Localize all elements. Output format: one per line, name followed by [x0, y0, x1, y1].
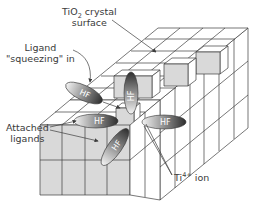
ligand-label: HF — [94, 117, 105, 126]
ligand-callout-line — [73, 50, 90, 82]
ligand-label: HF — [160, 118, 171, 127]
ligand-attached-left: HF — [74, 114, 118, 128]
tio2-crystal-diagram: HF HF HF HF HF — [0, 0, 262, 202]
raised-cube-right — [196, 46, 228, 74]
ti-ion-label: Ti4+ ion — [174, 172, 209, 183]
attached-ligands-label: Attached ligands — [6, 122, 49, 144]
ligand-attached-right: HF — [142, 115, 186, 129]
ligand-squeezing-label: Ligand "squeezing" in — [6, 42, 75, 64]
ligand-vertical: HF — [124, 72, 138, 114]
raised-cube-middle — [164, 58, 196, 86]
ligand-label: HF — [127, 90, 136, 101]
tio2-surface-label: TiO2 crystal surface — [62, 6, 117, 28]
